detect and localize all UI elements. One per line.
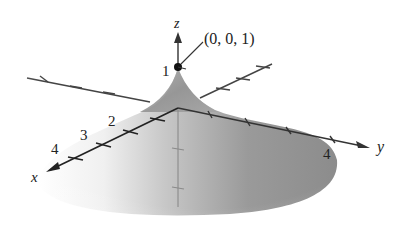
z-tick-label-1: 1: [162, 63, 170, 79]
x-tick-label-3: 3: [80, 127, 88, 143]
x-axis-label: x: [30, 169, 38, 185]
y-tick-label-4: 4: [323, 146, 331, 162]
point-annotation-label: (0, 0, 1): [204, 30, 255, 48]
x-tick-label-2: 2: [108, 113, 116, 129]
x-tick-label-4: 4: [51, 141, 59, 157]
y-axis-label: y: [375, 138, 385, 156]
z-axis-label: z: [173, 16, 180, 31]
surface-plot-figure: z 1 (0, 0, 1) 2 3 4 x 4 y: [0, 0, 413, 227]
